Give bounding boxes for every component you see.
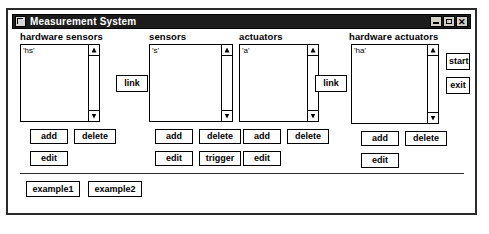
close-button[interactable]: ✕ <box>456 16 468 27</box>
label-hardware-sensors: hardware sensors <box>20 31 112 43</box>
add-button-hardware-sensors[interactable]: add <box>30 129 68 144</box>
delete-button-hardware-actuators[interactable]: delete <box>405 131 447 146</box>
title-bar[interactable]: Measurement System ✕ <box>12 14 471 29</box>
edit-button-hardware-sensors[interactable]: edit <box>30 151 68 166</box>
example1-button[interactable]: example1 <box>26 181 80 197</box>
list-item[interactable]: 'ha' <box>352 45 427 55</box>
scroll-down-arrow-icon[interactable] <box>308 110 318 121</box>
section-divider <box>20 173 464 174</box>
window-client-area: hardware sensors 'hs' add delete edit li… <box>12 31 471 211</box>
listbox-actuators[interactable]: 'a' <box>239 44 319 122</box>
add-button-hardware-actuators[interactable]: add <box>361 131 399 146</box>
window-controls: ✕ <box>430 16 468 27</box>
scroll-down-arrow-icon[interactable] <box>222 110 232 121</box>
minimize-button[interactable] <box>430 16 442 27</box>
edit-button-actuators[interactable]: edit <box>243 151 281 166</box>
panel-actuators: actuators 'a' add delete edit <box>239 31 325 43</box>
maximize-button[interactable] <box>443 16 455 27</box>
scroll-up-arrow-icon[interactable] <box>89 45 99 56</box>
scrollbar-hardware-sensors[interactable] <box>88 45 99 121</box>
scrollbar-track[interactable] <box>428 56 438 112</box>
edit-button-sensors[interactable]: edit <box>155 151 193 166</box>
add-button-sensors[interactable]: add <box>155 129 193 144</box>
scroll-down-arrow-icon[interactable] <box>428 112 438 123</box>
label-hardware-actuators: hardware actuators <box>349 31 449 43</box>
scroll-down-arrow-icon[interactable] <box>89 110 99 121</box>
delete-button-sensors[interactable]: delete <box>199 129 241 144</box>
link-button-actuators-hardware-actuators[interactable]: link <box>315 75 347 92</box>
trigger-button-sensors[interactable]: trigger <box>199 151 241 166</box>
scroll-up-arrow-icon[interactable] <box>308 45 318 56</box>
scrollbar-hardware-actuators[interactable] <box>427 45 438 123</box>
list-item[interactable]: 's' <box>150 45 221 55</box>
scroll-up-arrow-icon[interactable] <box>428 45 438 56</box>
listbox-hardware-actuators-items[interactable]: 'ha' <box>352 45 427 123</box>
panel-sensors: sensors 's' add delete edit trigger <box>149 31 241 43</box>
panel-hardware-sensors: hardware sensors 'hs' add delete edit <box>20 31 112 43</box>
edit-button-hardware-actuators[interactable]: edit <box>361 153 399 168</box>
app-window-icon <box>15 16 26 27</box>
delete-button-actuators[interactable]: delete <box>287 129 329 144</box>
scrollbar-track[interactable] <box>89 56 99 110</box>
application-window: Measurement System ✕ hardware sensors 'h… <box>6 8 477 215</box>
delete-button-hardware-sensors[interactable]: delete <box>74 129 116 144</box>
listbox-actuators-items[interactable]: 'a' <box>240 45 307 121</box>
listbox-sensors-items[interactable]: 's' <box>150 45 221 121</box>
listbox-hardware-sensors[interactable]: 'hs' <box>20 44 100 122</box>
panel-hardware-actuators: hardware actuators 'ha' add delete edit <box>349 31 449 43</box>
scrollbar-sensors[interactable] <box>221 45 232 121</box>
link-button-hardware-sensors-sensors[interactable]: link <box>116 75 148 92</box>
exit-button[interactable]: exit <box>446 77 470 94</box>
example2-button[interactable]: example2 <box>88 181 142 197</box>
close-icon: ✕ <box>457 17 467 27</box>
screen-root: Measurement System ✕ hardware sensors 'h… <box>0 0 489 234</box>
list-item[interactable]: 'hs' <box>21 45 88 55</box>
add-button-actuators[interactable]: add <box>243 129 281 144</box>
scrollbar-track[interactable] <box>222 56 232 110</box>
start-button[interactable]: start <box>446 53 470 70</box>
listbox-sensors[interactable]: 's' <box>149 44 233 122</box>
scroll-up-arrow-icon[interactable] <box>222 45 232 56</box>
listbox-hardware-actuators[interactable]: 'ha' <box>351 44 439 124</box>
window-title: Measurement System <box>30 16 430 27</box>
listbox-hardware-sensors-items[interactable]: 'hs' <box>21 45 88 121</box>
list-item[interactable]: 'a' <box>240 45 307 55</box>
label-actuators: actuators <box>239 31 325 43</box>
label-sensors: sensors <box>149 31 241 43</box>
